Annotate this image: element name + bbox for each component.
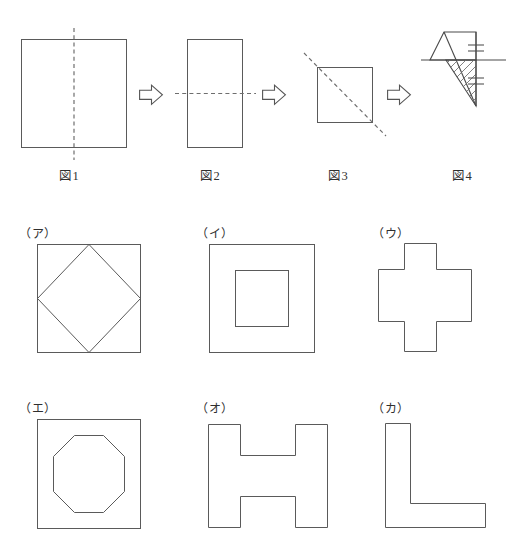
arrow-3-icon: [387, 84, 412, 106]
option-b-diagram: [180, 230, 360, 365]
option-a-diagram: [0, 230, 180, 365]
figure-4-diagram: [420, 0, 516, 175]
option-c-diagram: [360, 230, 516, 365]
option-f-diagram: [360, 405, 516, 545]
hatch-fill: [438, 30, 516, 108]
option-d-diagram: [0, 405, 180, 545]
figure-sheet: 図1 図2 図3: [0, 0, 516, 548]
figure-3-caption: 図3: [328, 165, 348, 184]
figure-1-diagram: [0, 0, 150, 175]
figure-2-caption: 図2: [200, 165, 220, 184]
arrow-2-icon: [262, 84, 287, 106]
figure-4-caption: 図4: [452, 165, 472, 184]
figure-1-caption: 図1: [59, 165, 79, 184]
option-e-diagram: [180, 405, 360, 545]
